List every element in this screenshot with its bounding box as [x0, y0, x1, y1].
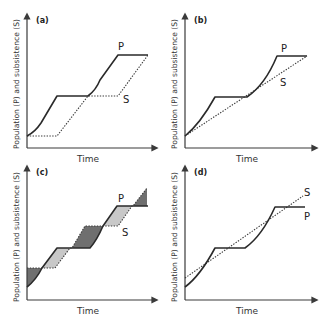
panel-label: (c) [36, 168, 48, 177]
s-label: S [123, 94, 129, 105]
s-label: S [304, 187, 310, 198]
figure: (a) Population (P) and subsistence (S) T… [0, 0, 328, 325]
subsistence-line [185, 56, 307, 136]
p-label: P [281, 43, 287, 54]
panel-a: (a) Population (P) and subsistence (S) T… [12, 16, 155, 164]
s-label: S [122, 227, 128, 238]
population-line [185, 207, 305, 287]
y-axis-label: Population (P) and subsistence (S) [12, 172, 21, 302]
surplus-area [103, 206, 132, 226]
x-axis-label: Time [235, 154, 258, 164]
panel-d: (d) Population (P) and subsistence (S) T… [170, 168, 315, 316]
x-axis-label: Time [235, 306, 258, 316]
y-axis-label: Population (P) and subsistence (S) [170, 172, 179, 302]
panel-c: (c) Population (P) and subsistence (S) T… [12, 168, 155, 316]
s-label: S [280, 77, 286, 88]
p-label: P [304, 211, 310, 222]
p-label: P [118, 41, 124, 52]
surplus-area [42, 248, 70, 268]
x-axis-label: Time [76, 306, 99, 316]
panel-label: (b) [194, 16, 207, 25]
p-label: P [118, 193, 124, 204]
panel-b: (b) Population (P) and subsistence (S) T… [170, 16, 315, 164]
y-axis-label: Population (P) and subsistence (S) [170, 19, 179, 149]
deficit-area [133, 188, 147, 206]
panel-label: (a) [36, 16, 49, 25]
subsistence-line [185, 196, 303, 278]
panel-label: (d) [194, 168, 207, 177]
population-line [27, 55, 148, 136]
y-axis-label: Population (P) and subsistence (S) [12, 19, 21, 149]
x-axis-label: Time [76, 154, 99, 164]
